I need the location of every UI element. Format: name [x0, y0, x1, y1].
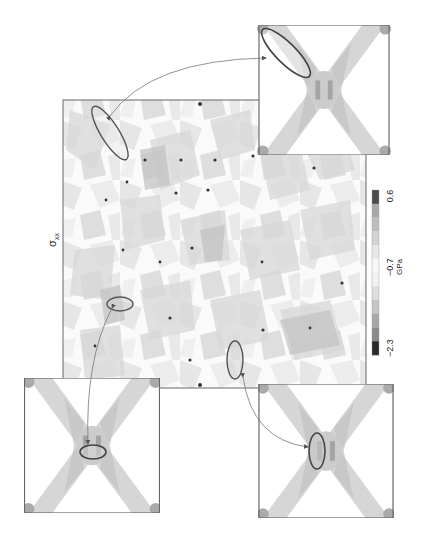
colorbar-level [372, 218, 379, 232]
colorbar-level [372, 328, 379, 342]
inset-ellipse-bottom-right [309, 433, 325, 469]
highlight-ellipse-2 [107, 297, 133, 311]
colorbar-level [372, 314, 379, 328]
inset-bottom-left [23, 376, 162, 515]
colorbar-level [372, 190, 379, 204]
colorbar-level [372, 273, 379, 287]
colorbar: 0.6 −0.7 GPa −2.3 [372, 190, 404, 357]
colorbar-max-label: 0.6 [385, 190, 395, 203]
svg-text:σxx: σxx [46, 233, 60, 247]
highlight-ellipse-3 [227, 341, 243, 379]
colorbar-level [372, 245, 379, 259]
stress-figure: σxx 0.6 −0.7 GPa −2.3 [0, 0, 426, 545]
colorbar-level [372, 259, 379, 273]
inset-bottom-right [257, 382, 395, 520]
colorbar-level [372, 231, 379, 245]
inset-ellipse-bottom-left [80, 445, 106, 459]
colorbar-level [372, 300, 379, 314]
colorbar-level [372, 286, 379, 300]
colorbar-mid-label: −0.7 [385, 258, 395, 276]
colorbar-levels [372, 190, 379, 355]
colorbar-level [372, 204, 379, 218]
colorbar-level [372, 341, 379, 355]
colorbar-min-label: −2.3 [385, 339, 395, 357]
colorbar-unit: GPa [395, 258, 404, 275]
panel-title: σxx [46, 233, 60, 247]
inset-top-right [256, 23, 391, 157]
